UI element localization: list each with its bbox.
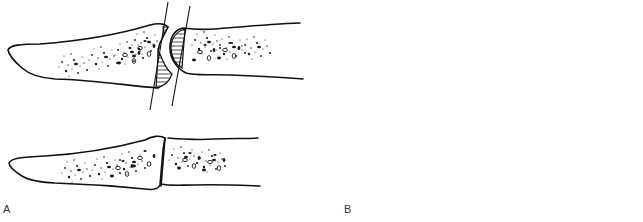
distal-bone — [9, 136, 165, 189]
arthrodesis-diagram: A B — [0, 0, 643, 222]
proximal-bone — [170, 23, 303, 79]
panel-a — [8, 2, 303, 190]
proximal-bone-bottom — [161, 184, 260, 186]
diagram-canvas — [0, 0, 643, 222]
panel-label-b: B — [344, 204, 351, 215]
panel-a-before — [8, 2, 303, 110]
panel-a-after — [9, 136, 260, 189]
panel-label-a: A — [3, 204, 10, 215]
proximal-bone — [168, 138, 258, 139]
distal-bone — [8, 24, 168, 88]
